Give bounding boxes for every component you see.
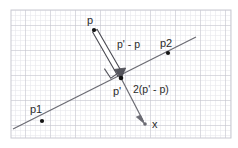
geometry-figure: p p' p1 p2 x p' - p 2(p' - p)	[0, 0, 238, 148]
label-p1: p1	[30, 103, 42, 115]
point-x	[143, 122, 147, 126]
label-p2: p2	[160, 37, 172, 49]
figure-canvas: p p' p1 p2 x p' - p 2(p' - p)	[0, 0, 238, 148]
label-p-prime: p'	[113, 85, 121, 97]
point-p	[92, 28, 96, 32]
point-p2	[166, 51, 170, 55]
point-p-prime	[119, 76, 124, 81]
label-vector-double: 2(p' - p)	[133, 83, 169, 95]
label-x: x	[152, 118, 158, 130]
point-p1	[40, 119, 44, 123]
label-vector-diff: p' - p	[117, 38, 140, 50]
label-p: p	[87, 14, 93, 26]
